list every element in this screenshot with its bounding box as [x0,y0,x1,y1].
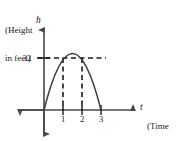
y-tick-label-32: 32 [19,53,35,63]
x-tick-label-1: 1 [57,114,69,124]
y-axis-symbol-label: h [36,16,41,26]
x-tick-label-2: 2 [76,114,88,124]
projectile-height-figure: (Height in feet) h t (Time in seconds) 3… [0,0,194,141]
y-axis-caption-line-1: (Height [5,26,33,35]
parabola-curve [44,54,101,111]
x-axis-caption-line-1: (Time [147,122,194,131]
y-axis-caption: (Height in feet) [5,7,33,83]
x-axis-symbol-label: t [140,103,143,113]
x-tick-label-3: 3 [95,114,107,124]
x-axis-caption: (Time in seconds) [147,103,194,141]
